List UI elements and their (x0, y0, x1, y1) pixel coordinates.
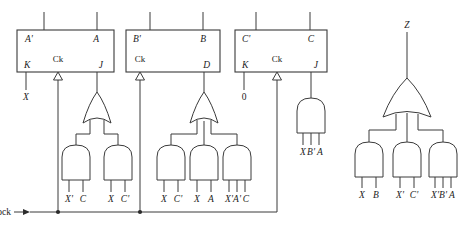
and-gate-d-3 (223, 145, 251, 180)
ff-c-ck-label: Ck (272, 54, 283, 64)
and-gate-ja-2 (104, 145, 132, 180)
ff-c-q-label: C (308, 34, 315, 44)
or-d-branch3 (211, 129, 237, 145)
input-label-z-1: B (373, 190, 379, 200)
input-label-z-3: C' (410, 190, 419, 200)
and-gate-ja-1 (62, 145, 90, 180)
input-label-ja-2: X (107, 194, 115, 204)
logic-block-d: X C' X A X' A' C (157, 92, 251, 204)
output-z-group: Z X B X' C' X' B' (355, 20, 457, 200)
or-gate-z (383, 78, 431, 117)
and-gate-z-2 (393, 142, 421, 177)
input-label-d-6: C (243, 194, 250, 204)
logic-block-jc: X B' A (297, 98, 325, 157)
input-label-d-0: X (160, 194, 168, 204)
and-gate-d-1 (157, 145, 185, 180)
or-d-branch1 (171, 129, 197, 145)
ff-b-q-label: B (200, 34, 206, 44)
input-label-ja-0: X' (64, 194, 74, 204)
clock-arrow-icon (23, 209, 30, 215)
or-z-branch3 (418, 124, 443, 142)
input-label-d-5: A' (232, 194, 242, 204)
ff-c-clock-triangle-icon (273, 72, 282, 80)
clock-label: Clock (0, 207, 11, 217)
circuit-diagram-canvas: A' A K Ck J X (0, 0, 469, 236)
or-gate-ja (83, 92, 111, 123)
input-label-ja-1: C (80, 194, 87, 204)
circuit-svg: A' A K Ck J X (0, 0, 469, 236)
input-label-d-3: A (207, 194, 214, 204)
input-label-ja-3: C' (121, 194, 130, 204)
input-label-d-1: C' (174, 194, 183, 204)
or-z-branch1 (369, 124, 396, 142)
ff-b-d-label: D (202, 60, 210, 70)
and-gate-z-1 (355, 142, 383, 177)
z-output-label: Z (404, 20, 410, 30)
and-gate-z-3 (429, 142, 457, 177)
ff-a-qbar-label: A' (24, 34, 34, 44)
ff-a-clock-triangle-icon (54, 72, 63, 80)
or-gate-d (190, 92, 218, 123)
clock-bus-group: Clock (0, 207, 277, 217)
ff-a-q-label: A (92, 34, 99, 44)
ff-b-ck-label: Ck (135, 54, 146, 64)
and-gate-jc (297, 98, 325, 133)
or-ja-branch2 (104, 129, 118, 145)
ff-a-ck-label: Ck (53, 54, 64, 64)
input-label-jc-1: B' (307, 147, 316, 157)
ff-a-x-input-label: X (22, 92, 30, 102)
clock-junction-dot-2 (138, 210, 142, 214)
ff-b-qbar-label: B' (133, 34, 142, 44)
ff-c-k-label: K (241, 60, 249, 70)
input-label-z-2: X' (395, 190, 405, 200)
input-label-d-2: X (193, 194, 201, 204)
input-label-jc-2: A (316, 147, 323, 157)
input-label-z-0: X (358, 190, 366, 200)
ff-a-k-label: K (23, 60, 31, 70)
input-label-z-6: A (448, 190, 455, 200)
logic-block-ja: X' C X C' (62, 92, 132, 204)
and-gate-d-2 (190, 145, 218, 180)
ff-c-qbar-label: C' (242, 34, 251, 44)
input-label-jc-0: X (299, 147, 307, 157)
clock-junction-dot-1 (56, 210, 60, 214)
or-ja-branch1 (76, 129, 90, 145)
ff-b-clock-triangle-icon (136, 72, 145, 80)
input-label-z-5: B' (439, 190, 448, 200)
ff-c-zero-input-label: 0 (242, 92, 247, 102)
